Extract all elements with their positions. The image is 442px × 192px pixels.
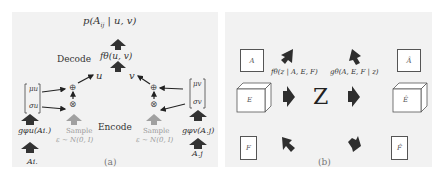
decoder-function-label: gθ(A, E, F | z) xyxy=(330,68,379,76)
input-cube-e xyxy=(237,83,271,112)
panel-b-graphics xyxy=(0,0,442,192)
output-cube-e-hat xyxy=(393,83,427,112)
input-cube-e-label: E xyxy=(247,96,252,104)
output-cube-e-hat-label: Ê xyxy=(403,96,408,104)
caption-b: (b) xyxy=(318,157,331,167)
latent-z: Z xyxy=(313,84,328,109)
encoder-function-label: fθ(z | A, E, F) xyxy=(271,68,318,76)
